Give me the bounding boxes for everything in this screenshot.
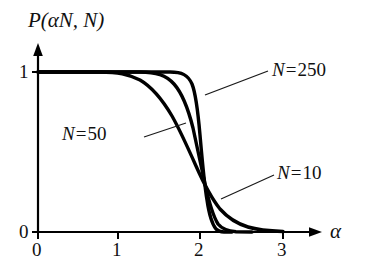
y-tick-label-0: 0	[19, 222, 29, 241]
x-axis-title: α	[330, 221, 341, 242]
series-label-n10-name: N	[277, 162, 290, 183]
y-axis-title: P(αN, N)	[28, 10, 104, 31]
leader-line-n250	[205, 71, 268, 95]
curve-n250	[38, 72, 232, 232]
x-tick-label-3: 3	[277, 240, 287, 259]
series-label-n50: N=50	[62, 124, 106, 143]
series-label-n50-value: 50	[87, 123, 106, 144]
series-label-n250: N=250	[272, 60, 326, 79]
series-label-n250-name: N	[272, 59, 285, 80]
x-tick-label-2: 2	[194, 240, 204, 259]
plot-canvas	[0, 0, 370, 273]
x-tick-label-0: 0	[32, 240, 42, 259]
series-label-n50-eq: =	[75, 123, 88, 144]
series-label-n10: N=10	[277, 163, 321, 182]
y-tick-label-1: 1	[19, 62, 29, 81]
series-label-n250-eq: =	[285, 59, 298, 80]
leader-line-n10	[221, 175, 274, 199]
series-label-n10-eq: =	[290, 162, 303, 183]
series-label-n50-name: N	[62, 123, 75, 144]
series-label-n10-value: 10	[302, 162, 321, 183]
x-axis-arrowhead	[309, 227, 322, 237]
y-axis-arrowhead	[33, 43, 43, 56]
x-tick-label-1: 1	[112, 240, 122, 259]
curve-n10	[38, 72, 283, 232]
series-label-n250-value: 250	[297, 59, 326, 80]
figure-container: P(αN, N) α 1 0 0 1 2 3 N=250 N=50 N=10	[0, 0, 370, 273]
